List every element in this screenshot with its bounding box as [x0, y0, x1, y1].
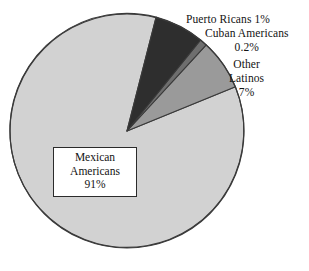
slice-label-cuban-americans-percent: 0.2%: [205, 41, 289, 55]
slice-label-mexican-americans-line2: Americans: [56, 165, 134, 179]
slice-label-other-latinos-line2: Latinos: [229, 71, 264, 85]
slice-label-mexican-americans-line1: Mexican: [56, 151, 134, 165]
slice-label-puerto-ricans: Puerto Ricans 1%: [186, 13, 270, 27]
pie-chart-figure: Puerto Ricans 1% Cuban Americans 0.2% Ot…: [0, 0, 309, 271]
slice-label-other-latinos: Other Latinos 7%: [229, 57, 264, 99]
slice-label-other-latinos-line1: Other: [229, 57, 264, 71]
slice-label-mexican-americans: Mexican Americans 91%: [53, 147, 137, 197]
slice-label-cuban-americans-name: Cuban Americans: [205, 27, 289, 39]
slice-label-other-latinos-percent: 7%: [229, 85, 264, 99]
slice-label-puerto-ricans-text: Puerto Ricans 1%: [186, 13, 270, 25]
slice-label-cuban-americans: Cuban Americans 0.2%: [205, 27, 289, 54]
slice-label-mexican-americans-percent: 91%: [56, 178, 134, 192]
